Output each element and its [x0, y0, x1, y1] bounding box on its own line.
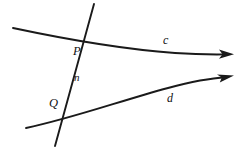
- diagram-canvas: [0, 0, 239, 149]
- curve-label-d: d: [167, 92, 173, 104]
- point-label-q: Q: [49, 97, 58, 110]
- curve-c-path: [13, 28, 226, 54]
- point-label-p: P: [73, 45, 81, 58]
- curve-label-c: c: [163, 34, 168, 46]
- line-label-n: n: [74, 72, 80, 83]
- geometry-diagram: P Q n c d: [0, 0, 239, 149]
